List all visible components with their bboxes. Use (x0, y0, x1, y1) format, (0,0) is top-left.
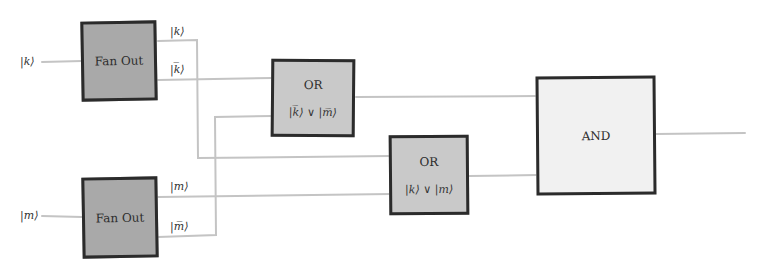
and-gate: AND (535, 75, 656, 195)
wire-m-to-or2 (158, 194, 391, 197)
or1-gate: OR |k̅⟩ ∨ |m̅⟩ (271, 59, 356, 138)
input-label-m: |m⟩ (20, 209, 38, 222)
or1-title: OR (304, 77, 323, 91)
wire-input-k (42, 61, 82, 62)
wire-label-m: |m⟩ (170, 180, 188, 193)
wire-label-k: |k⟩ (170, 25, 185, 38)
fanout-m-title: Fan Out (96, 210, 145, 225)
fanout-k-gate: Fan Out (80, 20, 157, 101)
and-title: AND (582, 128, 611, 142)
or2-gate: OR |k⟩ ∨ |m⟩ (389, 135, 470, 216)
or1-expression: |k̅⟩ ∨ |m̅⟩ (289, 105, 337, 118)
wire-or2-to-and (469, 175, 537, 176)
wire-kbar-to-or1 (158, 78, 272, 80)
or2-expression: |k⟩ ∨ |m⟩ (405, 182, 453, 195)
logic-circuit-diagram: |k⟩ |m⟩ Fan Out Fan Out |k⟩ |k̅⟩ |m⟩ |m̅… (0, 0, 765, 264)
fanout-m-gate: Fan Out (81, 176, 158, 258)
fanout-k-title: Fan Out (95, 54, 144, 69)
wire-or1-to-and (356, 96, 537, 97)
wire-label-mbar: |m̅⟩ (170, 220, 188, 233)
or2-title: OR (419, 154, 438, 168)
input-label-k: |k⟩ (20, 55, 35, 68)
wire-mbar-to-or1 (158, 116, 272, 237)
wire-input-m (42, 216, 82, 217)
wire-label-kbar: |k̅⟩ (170, 63, 185, 76)
wire-and-output (656, 133, 745, 134)
